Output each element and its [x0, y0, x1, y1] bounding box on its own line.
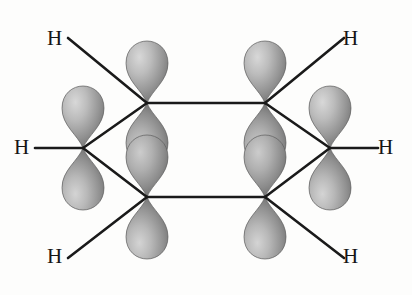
orbital-lobe-up: [126, 135, 168, 197]
orbital-lobe-up: [244, 135, 286, 197]
p-orbital-group: [62, 41, 351, 259]
atom-label-h-mid-right: H: [378, 137, 393, 158]
orbital-lobe-down: [244, 197, 286, 259]
atom-label-h-mid-left: H: [14, 137, 29, 158]
orbital-lobe-down: [62, 148, 104, 210]
atom-label-h-top-right: H: [343, 28, 358, 49]
orbital-lobe-down: [126, 197, 168, 259]
orbital-lobe-up: [244, 41, 286, 103]
atom-label-h-bottom-right: H: [343, 246, 358, 267]
bond-framework: [35, 38, 378, 258]
orbital-lobe-up: [126, 41, 168, 103]
atom-label-h-bottom-left: H: [47, 246, 62, 267]
orbital-lobe-down: [309, 148, 351, 210]
atom-label-h-top-left: H: [47, 28, 62, 49]
figure-canvas: H H H H H H: [0, 0, 412, 295]
